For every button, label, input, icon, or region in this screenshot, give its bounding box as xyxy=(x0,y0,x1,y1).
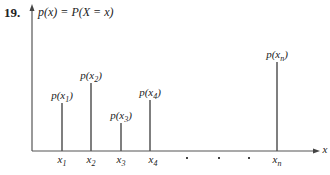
x-tick-x2: x2 xyxy=(87,153,96,168)
x-tick-xn: xn xyxy=(273,153,282,168)
bar-label-x2: p(x2) xyxy=(80,69,102,84)
ellipsis-dot xyxy=(218,157,220,159)
x-tick-x3: x3 xyxy=(117,153,126,168)
bar-label-x4: p(x4) xyxy=(139,86,161,101)
x-tick-x4: x4 xyxy=(149,153,158,168)
x-tick-x1: x1 xyxy=(58,153,67,168)
ellipsis-dot xyxy=(186,157,188,159)
bar-label-x3: p(x3) xyxy=(110,109,132,124)
bar-label-xn: p(xn) xyxy=(266,48,288,63)
ellipsis-dot xyxy=(248,157,250,159)
x-axis-label: x xyxy=(323,143,328,155)
bar-label-x1: p(x1) xyxy=(51,89,73,104)
chart-axes xyxy=(0,0,330,175)
